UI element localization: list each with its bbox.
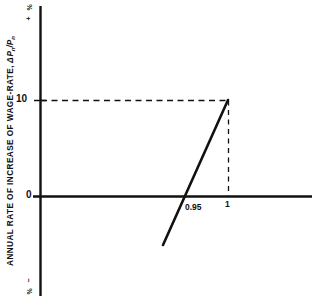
chart-figure: ANNUAL RATE OF INCREASE OF WAGE-RATE,ΔPn… <box>0 0 325 302</box>
delta-symbol: Δ <box>6 58 15 64</box>
plus-sign-top: + <box>25 16 32 20</box>
x-tick-label-095: 0.95 <box>185 203 202 212</box>
numerator-subscript: n <box>9 47 15 51</box>
denominator-subscript: n <box>9 36 15 40</box>
y-tick-label-0: 0 <box>26 190 32 200</box>
y-axis-title-lead: ANNUAL RATE OF INCREASE OF WAGE-RATE, <box>7 65 15 266</box>
numerator-symbol: P <box>6 51 15 56</box>
minus-sign-bottom: − <box>25 278 32 282</box>
data-series-line <box>163 100 228 245</box>
denominator-symbol: P <box>6 40 15 45</box>
chart-plot-area <box>0 0 325 302</box>
fraction-slash: / <box>6 45 15 47</box>
y-axis-title: ANNUAL RATE OF INCREASE OF WAGE-RATE,ΔPn… <box>0 0 22 302</box>
percent-unit-top: % <box>26 4 33 10</box>
percent-unit-bottom: % <box>26 288 33 294</box>
x-tick-label-1: 1 <box>225 200 230 209</box>
y-axis-title-formula: ΔPn/Pn <box>7 36 16 63</box>
y-tick-label-10: 10 <box>16 94 27 104</box>
